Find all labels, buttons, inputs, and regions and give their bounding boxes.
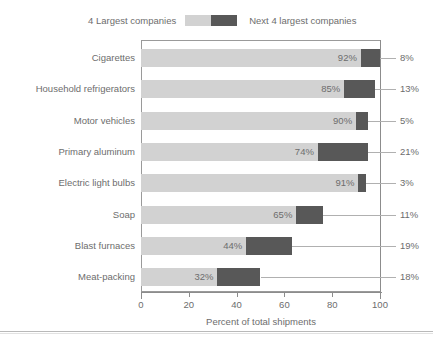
x-axis-tick-label: 0 [126,299,156,310]
category-label: Blast furnaces [0,237,135,255]
bar-segment-four-largest [141,174,358,192]
bar-segment-next-four-largest [246,237,291,255]
bar-value-label-outer: 21% [400,143,419,161]
bar-value-label-outer: 18% [400,268,419,286]
x-axis-tick-label: 100 [365,299,395,310]
x-axis-tick [141,292,142,299]
leader-line [261,277,397,278]
bar-segment-next-four-largest [318,143,368,161]
bar-row: Blast furnaces44%19% [141,237,380,255]
category-label: Cigarettes [0,49,135,67]
bar-segment-next-four-largest [358,174,365,192]
x-axis-tick-label: 40 [222,299,252,310]
x-axis-tick-label: 80 [317,299,347,310]
bar-row: Electric light bulbs91%3% [141,174,380,192]
leader-line [375,89,396,90]
bar-row: Primary aluminum74%21% [141,143,380,161]
bar-value-label-inner: 91% [329,174,354,192]
bar-segment-next-four-largest [356,112,368,130]
bar-value-label-inner: 65% [267,206,292,224]
bar-value-label-inner: 74% [289,143,314,161]
footer-divider [0,331,433,332]
bar-row: Cigarettes92%8% [141,49,380,67]
chart-figure: 4 Largest companies Next 4 largest compa… [0,0,433,341]
bar-value-label-inner: 90% [327,112,352,130]
bar-value-label-inner: 44% [217,237,242,255]
leader-line [323,215,396,216]
bar-rows: Cigarettes92%8%Household refrigerators85… [0,0,433,341]
x-axis-tick-label: 20 [174,299,204,310]
x-axis-tick-label: 60 [269,299,299,310]
x-axis-tick [332,292,333,297]
bar-row: Soap65%11% [141,206,380,224]
bar-segment-next-four-largest [296,206,322,224]
bar-segment-four-largest [141,112,356,130]
bar-value-label-inner: 85% [315,80,340,98]
x-axis-tick [380,292,381,299]
bar-value-label-inner: 32% [188,268,213,286]
leader-line [292,246,396,247]
x-axis-tick [237,292,238,297]
leader-line [368,121,396,122]
footer-divider-shadow [0,333,433,334]
bar-segment-four-largest [141,49,361,67]
category-label: Soap [0,206,135,224]
x-axis-tick [284,292,285,297]
category-label: Household refrigerators [0,80,135,98]
category-label: Primary aluminum [0,143,135,161]
bar-value-label-outer: 11% [400,206,418,224]
x-axis-title: Percent of total shipments [141,316,381,327]
bar-row: Motor vehicles90%5% [141,112,380,130]
bar-value-label-outer: 13% [400,80,419,98]
bar-segment-four-largest [141,80,344,98]
bar-value-label-outer: 5% [400,112,414,130]
bar-value-label-inner: 92% [332,49,357,67]
bar-row: Meat-packing32%18% [141,268,380,286]
bar-segment-next-four-largest [344,80,375,98]
bar-row: Household refrigerators85%13% [141,80,380,98]
category-label: Electric light bulbs [0,174,135,192]
bar-value-label-outer: 19% [400,237,419,255]
leader-line [380,58,396,59]
leader-line [366,183,396,184]
category-label: Meat-packing [0,268,135,286]
bar-segment-next-four-largest [217,268,260,286]
x-axis-tick [189,292,190,297]
bar-value-label-outer: 8% [400,49,414,67]
leader-line [368,152,396,153]
bar-segment-next-four-largest [361,49,380,67]
category-label: Motor vehicles [0,112,135,130]
bar-value-label-outer: 3% [400,174,414,192]
